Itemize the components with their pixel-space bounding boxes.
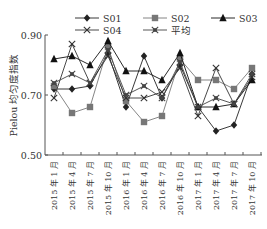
square-marker-icon	[195, 77, 201, 83]
diamond-marker-icon	[231, 121, 237, 128]
x-tick-label: 2017 年 7 月	[229, 161, 239, 210]
star-marker-icon	[69, 71, 75, 77]
diamond-marker-icon	[123, 103, 129, 110]
legend-item: S02	[143, 13, 190, 24]
legend-label: S03	[239, 13, 258, 24]
x-tick-label: 2016 年 10 月	[175, 161, 185, 215]
star-marker-icon	[141, 83, 147, 89]
x-tick-label: 2017 年 10 月	[247, 161, 257, 215]
legend-item: 平均	[143, 25, 191, 36]
series-line	[54, 41, 252, 107]
x-tick-label: 2016 年 1 月	[121, 161, 131, 210]
diamond-marker-icon	[84, 14, 90, 21]
triangle-marker-icon	[122, 67, 129, 74]
x-tick-label: 2015 年 7 月	[85, 161, 95, 210]
series-line	[54, 47, 252, 122]
series-3	[50, 37, 255, 110]
x-marker-icon	[51, 95, 57, 101]
y-tick-label: 0.50	[21, 150, 42, 161]
x-tick-label: 2017 年 1 月	[193, 161, 203, 210]
legend: S01S02S03S04平均	[75, 13, 258, 36]
y-tick-label: 0.90	[21, 30, 42, 41]
triangle-marker-icon	[176, 49, 183, 56]
diamond-marker-icon	[69, 85, 75, 92]
legend-label: S04	[103, 25, 122, 36]
x-marker-icon	[69, 41, 75, 47]
x-marker-icon	[195, 113, 201, 119]
square-marker-icon	[159, 113, 165, 119]
square-marker-icon	[69, 110, 75, 116]
square-marker-icon	[249, 65, 255, 71]
triangle-marker-icon	[219, 14, 226, 21]
series-4	[51, 41, 255, 119]
square-marker-icon	[141, 119, 147, 125]
square-marker-icon	[213, 77, 219, 83]
x-marker-icon	[213, 65, 219, 71]
triangle-marker-icon	[104, 37, 111, 44]
x-tick-label: 2017 年 4 月	[211, 161, 221, 210]
y-axis-label: Pielou 均匀度指数	[8, 54, 19, 137]
x-tick-label: 2015 年 4 月	[67, 161, 77, 210]
x-tick-label: 2015 年 10 月	[103, 161, 113, 215]
star-marker-icon	[213, 95, 219, 101]
pielou-evenness-line-chart: 0.500.700.902015 年 1 月2015 年 4 月2015 年 7…	[0, 0, 267, 229]
legend-item: S04	[75, 25, 122, 36]
legend-label: 平均	[171, 25, 191, 36]
legend-label: S02	[171, 13, 190, 24]
triangle-marker-icon	[140, 67, 147, 74]
square-marker-icon	[87, 104, 93, 110]
legend-item: S03	[211, 13, 258, 24]
x-tick-label: 2015 年 1 月	[49, 161, 59, 210]
series-5	[51, 47, 255, 110]
square-marker-icon	[152, 15, 158, 21]
legend-label: S01	[103, 13, 122, 24]
x-tick-label: 2016 年 7 月	[157, 161, 167, 210]
y-tick-label: 0.70	[21, 90, 42, 101]
x-tick-label: 2016 年 4 月	[139, 161, 149, 210]
square-marker-icon	[231, 86, 237, 92]
diamond-marker-icon	[141, 52, 147, 59]
legend-item: S01	[75, 13, 122, 24]
series-line	[54, 50, 252, 107]
